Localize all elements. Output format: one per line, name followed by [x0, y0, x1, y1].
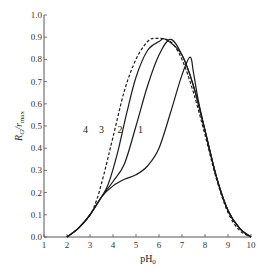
y-tick-label: 0.4 — [31, 143, 43, 153]
curve-label-1: 1 — [138, 124, 143, 135]
curve-label-2: 2 — [117, 124, 122, 135]
x-tick-label: 3 — [88, 240, 93, 250]
curve-1 — [67, 57, 251, 237]
y-tick-label: 0.3 — [31, 165, 43, 175]
x-tick-label: 4 — [111, 240, 116, 250]
curve-4 — [67, 38, 251, 237]
x-tick-label: 2 — [65, 240, 70, 250]
x-tick-label: 6 — [157, 240, 162, 250]
y-tick-label: 0.5 — [31, 121, 43, 131]
y-axis-title: RG/rmax — [13, 111, 26, 142]
x-tick-label: 1 — [42, 240, 47, 250]
y-tick-label: 0.0 — [31, 232, 43, 242]
y-tick-label: 0.6 — [31, 99, 43, 109]
y-tick-label: 0.1 — [31, 210, 42, 220]
x-tick-label: 5 — [134, 240, 139, 250]
axes — [44, 15, 251, 237]
x-tick-label: 8 — [203, 240, 208, 250]
y-tick-label: 0.8 — [31, 54, 43, 64]
x-axis-title: pH0 — [140, 253, 156, 266]
curve-label-4: 4 — [83, 124, 88, 135]
ticks: 123456789100.00.10.20.30.40.50.60.70.80.… — [31, 10, 256, 250]
y-tick-label: 0.9 — [31, 32, 43, 42]
series — [67, 38, 251, 237]
x-tick-label: 10 — [247, 240, 257, 250]
y-tick-label: 0.7 — [31, 77, 43, 87]
y-tick-label: 1.0 — [31, 10, 43, 20]
x-tick-label: 9 — [226, 240, 231, 250]
x-tick-label: 7 — [180, 240, 185, 250]
y-tick-label: 0.2 — [31, 188, 42, 198]
chart: 123456789100.00.10.20.30.40.50.60.70.80.… — [0, 0, 273, 277]
curve-label-3: 3 — [99, 124, 104, 135]
